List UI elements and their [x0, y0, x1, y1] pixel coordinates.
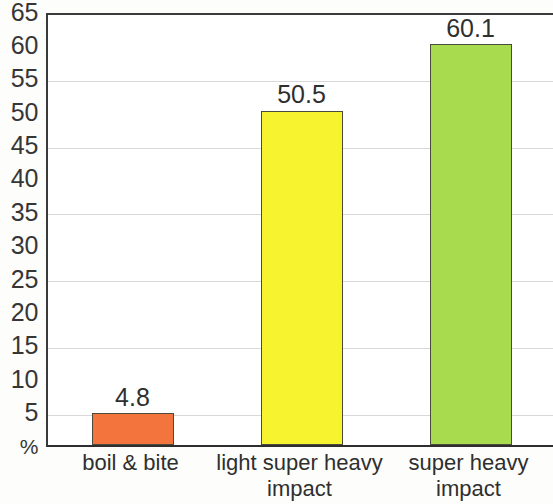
y-tick-label: 40 [11, 166, 38, 191]
x-tick-label: light super heavyimpact [215, 450, 384, 502]
y-tick-label: 5 [24, 400, 38, 425]
y-axis: 6560555045403530252015105% [0, 0, 44, 460]
x-tick-label-line1: light super heavy [215, 450, 384, 476]
x-tick-label-line1: boil & bite [46, 450, 215, 476]
y-tick-label: 15 [11, 333, 38, 358]
y-tick-label: 60 [11, 33, 38, 58]
x-tick-label-line2: impact [384, 476, 553, 502]
x-tick-label-line1: super heavy [384, 450, 553, 476]
x-axis: boil & bitelight super heavyimpactsuper … [46, 450, 553, 504]
y-tick-label: 30 [11, 233, 38, 258]
x-tick-label-line2: impact [215, 476, 384, 502]
y-tick-label: 35 [11, 200, 38, 225]
bar-value-label: 60.1 [411, 16, 531, 41]
bar-value-label: 4.8 [73, 385, 193, 410]
bar-value-label: 50.5 [242, 82, 362, 107]
y-tick-label: 25 [11, 267, 38, 292]
y-tick-label: 45 [11, 133, 38, 158]
bar-1 [92, 413, 174, 445]
y-tick-label: 55 [11, 66, 38, 91]
chart-page: 6560555045403530252015105% 4.850.560.1 b… [0, 0, 553, 504]
x-tick-label: super heavyimpact [384, 450, 553, 502]
y-tick-label: 65 [11, 0, 38, 25]
y-tick-label: % [20, 436, 38, 457]
y-tick-label: 50 [11, 100, 38, 125]
bar-2 [261, 111, 343, 446]
bar-3 [430, 44, 512, 445]
y-tick-label: 10 [11, 367, 38, 392]
plot-area: 4.850.560.1 [46, 13, 553, 447]
y-tick-label: 20 [11, 300, 38, 325]
x-tick-label: boil & bite [46, 450, 215, 476]
